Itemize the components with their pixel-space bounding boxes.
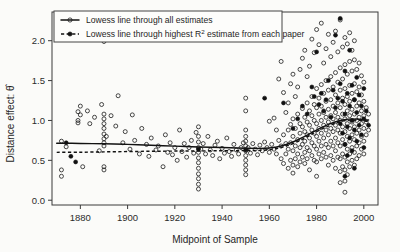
data-point-filled bbox=[348, 48, 352, 52]
data-point-open bbox=[211, 154, 215, 158]
data-point-open bbox=[215, 139, 219, 143]
y-tick-label: 1.5 bbox=[32, 75, 45, 86]
data-point-open bbox=[324, 155, 328, 159]
data-point-open bbox=[149, 136, 153, 140]
data-point-open bbox=[130, 113, 134, 117]
data-point-open bbox=[322, 150, 326, 154]
data-point-open bbox=[352, 39, 356, 43]
data-point-open bbox=[102, 122, 106, 126]
data-point-open bbox=[251, 142, 255, 146]
data-point-filled bbox=[333, 106, 337, 110]
legend-entry: Lowess line through highest R2 estimate … bbox=[61, 28, 305, 40]
data-point-open bbox=[102, 112, 106, 116]
data-point-open bbox=[307, 64, 311, 68]
data-point-filled bbox=[329, 115, 333, 119]
data-point-open bbox=[284, 152, 288, 156]
data-point-filled bbox=[300, 104, 304, 108]
data-point-open bbox=[196, 125, 200, 129]
data-point-open bbox=[305, 157, 309, 161]
data-point-filled bbox=[355, 75, 359, 79]
data-point-open bbox=[170, 153, 174, 157]
data-point-open bbox=[85, 109, 89, 113]
data-point-open bbox=[291, 149, 295, 153]
data-point-open bbox=[289, 158, 293, 162]
data-point-open bbox=[336, 101, 340, 105]
data-point-open bbox=[333, 29, 337, 33]
data-point-open bbox=[315, 122, 319, 126]
data-point-filled bbox=[341, 99, 345, 103]
data-point-open bbox=[78, 113, 82, 117]
data-point-open bbox=[284, 110, 288, 114]
x-tick-label: 1940 bbox=[212, 212, 233, 223]
data-point-open bbox=[189, 138, 193, 142]
data-point-filled bbox=[345, 125, 349, 129]
data-point-open bbox=[196, 140, 200, 144]
data-point-open bbox=[222, 151, 226, 155]
data-point-open bbox=[274, 152, 278, 156]
data-point-open bbox=[201, 142, 205, 146]
data-point-open bbox=[218, 157, 222, 161]
data-point-open bbox=[305, 101, 309, 105]
data-point-open bbox=[114, 124, 118, 128]
data-point-open bbox=[362, 80, 366, 84]
data-point-open bbox=[59, 174, 63, 178]
data-point-open bbox=[345, 147, 349, 151]
data-point-filled bbox=[343, 142, 347, 146]
data-point-open bbox=[329, 75, 333, 79]
data-point-open bbox=[194, 130, 198, 134]
data-point-filled bbox=[336, 96, 340, 100]
data-point-open bbox=[100, 103, 104, 107]
data-point-filled bbox=[350, 83, 354, 87]
data-point-open bbox=[244, 173, 248, 177]
data-point-open bbox=[345, 160, 349, 164]
data-point-open bbox=[300, 56, 304, 60]
data-point-open bbox=[331, 144, 335, 148]
data-points-all-estimates bbox=[59, 18, 370, 194]
data-point-open bbox=[357, 61, 361, 65]
data-point-open bbox=[244, 154, 248, 158]
data-point-open bbox=[298, 67, 302, 71]
data-point-open bbox=[192, 151, 196, 155]
data-point-open bbox=[298, 131, 302, 135]
data-point-open bbox=[331, 130, 335, 134]
data-point-open bbox=[350, 69, 354, 73]
data-point-open bbox=[333, 149, 337, 153]
y-axis-ticks: 0.00.51.01.52.0 bbox=[32, 35, 52, 206]
data-point-open bbox=[140, 126, 144, 130]
data-point-open bbox=[326, 163, 330, 167]
data-point-open bbox=[282, 91, 286, 95]
data-point-open bbox=[310, 37, 314, 41]
data-point-open bbox=[329, 139, 333, 143]
data-point-open bbox=[296, 165, 300, 169]
data-point-open bbox=[123, 130, 127, 134]
data-point-open bbox=[225, 136, 229, 140]
data-point-open bbox=[232, 142, 236, 146]
x-axis-label: Midpoint of Sample bbox=[172, 234, 258, 245]
data-point-open bbox=[331, 40, 335, 44]
data-point-open bbox=[109, 114, 113, 118]
data-point-open bbox=[282, 133, 286, 137]
data-point-open bbox=[270, 142, 274, 146]
data-point-open bbox=[329, 154, 333, 158]
data-point-open bbox=[345, 42, 349, 46]
data-point-filled bbox=[348, 136, 352, 140]
data-point-open bbox=[244, 96, 248, 100]
data-point-open bbox=[286, 166, 290, 170]
legend-marker-filled bbox=[68, 32, 72, 36]
data-point-open bbox=[367, 128, 371, 132]
x-tick-label: 1980 bbox=[306, 212, 327, 223]
legend: Lowess line through all estimatesLowess … bbox=[54, 11, 305, 42]
data-point-open bbox=[279, 59, 283, 63]
data-point-filled bbox=[362, 87, 366, 91]
data-point-open bbox=[310, 154, 314, 158]
data-point-open bbox=[133, 138, 137, 142]
data-point-filled bbox=[319, 91, 323, 95]
data-point-open bbox=[102, 137, 106, 141]
data-point-filled bbox=[359, 133, 363, 137]
data-point-open bbox=[341, 45, 345, 49]
data-point-filled bbox=[341, 131, 345, 135]
data-point-filled bbox=[345, 154, 349, 158]
data-point-filled bbox=[305, 112, 309, 116]
data-point-open bbox=[178, 128, 182, 132]
data-point-open bbox=[315, 134, 319, 138]
